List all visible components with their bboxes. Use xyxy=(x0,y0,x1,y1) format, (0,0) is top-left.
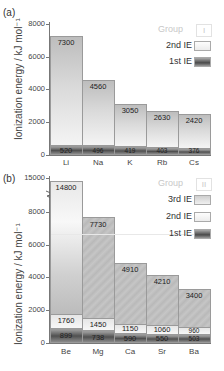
legend-group-number: II xyxy=(196,178,212,191)
y-tick xyxy=(46,310,49,311)
value-label: 2420 xyxy=(178,116,210,125)
x-tick-label: Mg xyxy=(82,347,114,356)
x-tick-label: Ca xyxy=(114,347,146,356)
legend-title: Group xyxy=(158,24,183,34)
y-tick xyxy=(46,122,49,123)
value-label: 2630 xyxy=(146,113,178,122)
x-tick-label: Sr xyxy=(146,347,178,356)
x-tick-label: Li xyxy=(50,158,82,167)
value-label: 4210 xyxy=(146,277,178,286)
y-tick-label: 6000 xyxy=(5,52,45,61)
legend-label-ie3: 3rd IE xyxy=(142,194,192,204)
bar-be-ie3 xyxy=(50,181,83,315)
y-tick xyxy=(46,245,49,246)
legend-swatch-ie2 xyxy=(194,41,211,51)
value-label: 14800 xyxy=(50,183,82,192)
value-label: 503 xyxy=(178,335,210,342)
y-tick-label: 4000 xyxy=(5,272,45,281)
value-label: 3050 xyxy=(114,106,146,115)
value-label: 520 xyxy=(50,146,82,155)
value-label: 1150 xyxy=(114,324,146,333)
bar-mg-ie3 xyxy=(82,217,115,319)
x-tick-label: Be xyxy=(50,347,82,356)
y-tick xyxy=(46,24,49,25)
y-tick-label: 0 xyxy=(5,338,45,347)
y-tick-label: 6000 xyxy=(5,240,45,249)
y-tick xyxy=(46,57,49,58)
value-label: 7300 xyxy=(50,38,82,47)
legend-label-ie2: 2nd IE xyxy=(142,40,192,50)
y-tick-label: 8000 xyxy=(5,19,45,28)
legend-swatch-ie1 xyxy=(194,229,211,239)
legend-swatch-ie2 xyxy=(194,212,211,222)
value-label: 4910 xyxy=(114,265,146,274)
y-tick xyxy=(46,343,49,344)
x-tick-label: Cs xyxy=(178,158,210,167)
legend-title: Group xyxy=(158,178,183,188)
x-axis-a xyxy=(49,155,211,156)
x-tick-label: Na xyxy=(82,158,114,167)
value-label: 419 xyxy=(114,147,146,154)
y-tick-label: 2000 xyxy=(5,117,45,126)
value-label: 738 xyxy=(82,333,114,342)
y-tick-label: 2000 xyxy=(5,305,45,314)
value-label: 376 xyxy=(178,147,210,154)
x-tick-label: K xyxy=(114,158,146,167)
value-label: 1760 xyxy=(50,316,82,325)
legend-group-number: I xyxy=(196,24,212,37)
value-label: 7730 xyxy=(82,220,114,229)
value-label: 899 xyxy=(50,331,82,340)
legend-label-ie1: 1st IE xyxy=(142,228,192,238)
value-label: 496 xyxy=(82,147,114,154)
x-axis-b xyxy=(49,343,211,344)
value-label: 3400 xyxy=(178,291,210,300)
bar-li-ie2 xyxy=(50,36,83,146)
value-label: 1060 xyxy=(146,325,178,334)
y-tick xyxy=(46,212,49,213)
value-label: 1450 xyxy=(82,320,114,329)
legend-swatch-ie3 xyxy=(194,195,211,205)
y-tick-label: 4000 xyxy=(5,84,45,93)
value-label: 4560 xyxy=(82,82,114,91)
y-tick-label: 8000 xyxy=(5,207,45,216)
y-tick-label: 15000 xyxy=(5,173,45,182)
y-tick xyxy=(46,89,49,90)
legend-label-ie2: 2nd IE xyxy=(142,211,192,221)
value-label: 960 xyxy=(178,327,210,334)
legend-swatch-ie1 xyxy=(194,57,211,67)
y-tick xyxy=(46,178,49,179)
y-tick xyxy=(46,277,49,278)
value-label: 590 xyxy=(114,334,146,343)
x-tick-label: Ba xyxy=(178,347,210,356)
value-label: 550 xyxy=(146,334,178,343)
y-tick-label: 0 xyxy=(5,150,45,159)
y-tick xyxy=(46,155,49,156)
x-tick-label: Rb xyxy=(146,158,178,167)
value-label: 403 xyxy=(146,147,178,154)
legend-label-ie1: 1st IE xyxy=(142,56,192,66)
panel-a-label: (a) xyxy=(3,7,15,18)
